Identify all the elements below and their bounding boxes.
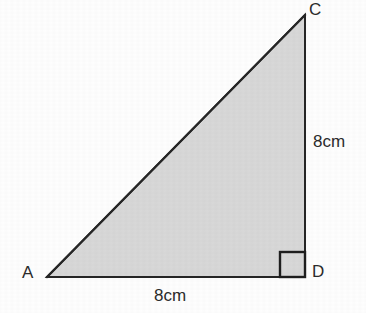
side-length-label-cd: 8cm [313, 133, 345, 150]
vertex-label-c: C [309, 1, 321, 18]
side-length-label-ad: 8cm [154, 287, 186, 304]
vertex-label-a: A [22, 264, 33, 281]
geometry-figure: C A D 8cm 8cm [0, 0, 366, 313]
vertex-label-d: D [312, 263, 324, 280]
